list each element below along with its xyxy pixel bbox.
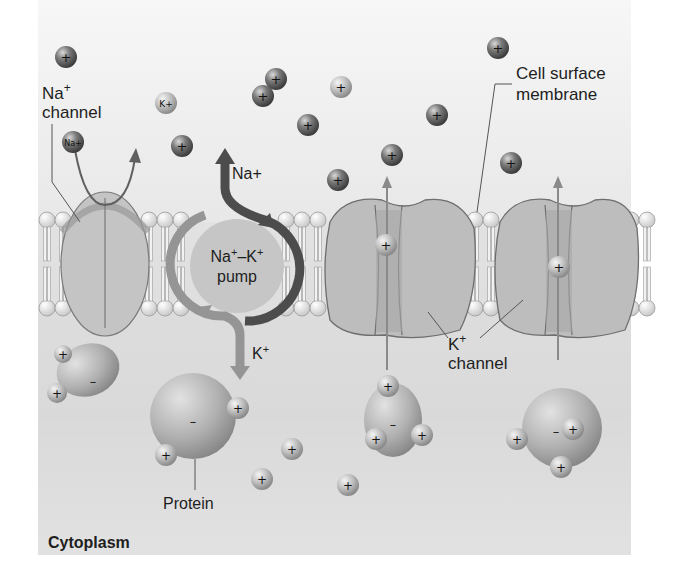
svg-text:+: + [387, 148, 398, 163]
svg-text:+: + [554, 260, 565, 275]
cell-membrane-label: Cell surface [516, 64, 606, 83]
svg-text:+: + [161, 449, 171, 463]
svg-text:+: + [336, 80, 347, 95]
pump-na-out-label: Na+ [232, 165, 262, 182]
cytoplasm-label: Cytoplasm [48, 534, 130, 551]
ion-na: Na+ [62, 131, 84, 153]
svg-text:+: + [177, 139, 188, 154]
ion-plus: + [55, 46, 77, 68]
free-ion: + [281, 438, 303, 460]
svg-text:+: + [271, 72, 282, 87]
k-channel-label-line2: channel [448, 354, 508, 373]
cell-membrane-label-line2: membrane [516, 85, 597, 104]
na-channel-label-line2: channel [42, 103, 102, 122]
ion-k: K+ [155, 92, 177, 114]
svg-text:+: + [233, 402, 243, 416]
svg-text:–: – [90, 374, 97, 389]
svg-text:+: + [287, 443, 297, 457]
svg-text:K+: K+ [159, 99, 172, 109]
svg-text:+: + [343, 479, 353, 493]
ion-plus: + [327, 169, 349, 191]
ion-plus-in-channel: + [548, 256, 570, 278]
svg-text:+: + [417, 429, 427, 443]
svg-text:+: + [512, 433, 522, 447]
ion-plus: + [381, 144, 403, 166]
svg-text:+: + [381, 238, 392, 253]
svg-text:–: – [190, 414, 197, 429]
ion-plus: + [487, 37, 509, 59]
svg-text:–: – [553, 424, 560, 439]
free-ion: + [251, 468, 273, 490]
ion-plus: + [330, 76, 352, 98]
ion-plus: + [171, 135, 193, 157]
svg-text:+: + [61, 50, 72, 65]
svg-text:+: + [506, 156, 517, 171]
protein-label: Protein [163, 495, 214, 512]
pump-label-line2: pump [217, 268, 257, 285]
svg-text:–: – [390, 417, 397, 432]
svg-text:+: + [58, 348, 68, 362]
svg-text:+: + [493, 41, 504, 56]
ion-plus-in-channel: + [375, 234, 397, 256]
ion-plus: + [426, 104, 448, 126]
membrane-transport-diagram: + K+ Na+ + + + + + + + + + + + + – + + –… [0, 0, 683, 572]
svg-text:Na+: Na+ [64, 139, 82, 148]
ion-plus: + [297, 114, 319, 136]
pump-label: Na+–K+ [211, 246, 264, 265]
svg-text:+: + [52, 387, 62, 401]
ion-plus: + [500, 152, 522, 174]
svg-text:+: + [258, 89, 269, 104]
svg-text:+: + [383, 380, 393, 394]
svg-text:+: + [432, 108, 443, 123]
free-ion: + [337, 474, 359, 496]
ion-plus: + [252, 85, 274, 107]
svg-text:+: + [333, 173, 344, 188]
svg-text:+: + [303, 118, 314, 133]
svg-text:+: + [371, 433, 381, 447]
svg-text:+: + [568, 423, 578, 437]
svg-text:+: + [257, 473, 267, 487]
svg-text:+: + [556, 461, 566, 475]
